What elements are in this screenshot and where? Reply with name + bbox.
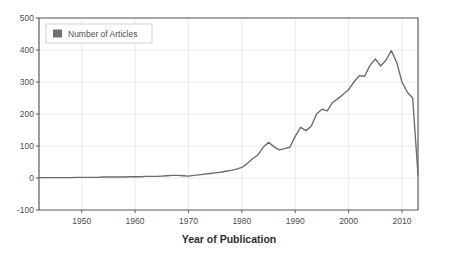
x-tick-label: 2000	[339, 216, 358, 226]
y-tick-label: -100	[17, 205, 34, 215]
y-tick-label: 400	[20, 45, 34, 55]
y-axis-tick-labels: 5004003002001000-100	[17, 13, 34, 215]
x-tick-label: 1990	[286, 216, 305, 226]
y-tick-label: 300	[20, 77, 34, 87]
grid-lines	[39, 18, 418, 210]
y-tick-label: 200	[20, 109, 34, 119]
x-tick-label: 1950	[72, 216, 91, 226]
x-axis-title: Year of Publication	[182, 233, 277, 245]
legend-swatch	[53, 30, 62, 38]
chart-container: 5004003002001000-100 1950196019701980199…	[0, 0, 450, 260]
y-tick-label: 500	[20, 13, 34, 23]
line-chart: 5004003002001000-100 1950196019701980199…	[0, 0, 450, 260]
x-tick-label: 1960	[126, 216, 145, 226]
x-axis-tick-labels: 1950196019701980199020002010	[72, 216, 411, 226]
x-tick-label: 1970	[179, 216, 198, 226]
legend-label: Number of Articles	[68, 29, 137, 39]
x-tick-label: 1980	[232, 216, 251, 226]
y-tick-label: 0	[29, 173, 34, 183]
x-tick-label: 2010	[393, 216, 412, 226]
y-tick-label: 100	[20, 141, 34, 151]
chart-legend: Number of Articles	[46, 24, 152, 43]
tick-marks	[36, 18, 402, 213]
